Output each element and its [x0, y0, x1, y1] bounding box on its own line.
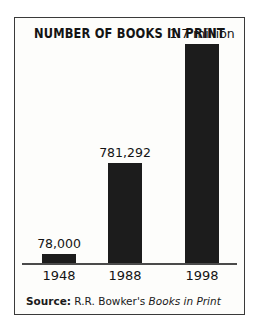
bar-value-label: 78,000 [37, 236, 81, 251]
plot-area: 78,000 781,292 1.7 million [15, 44, 244, 264]
source-note: Source: R.R. Bowker's Books in Print [26, 295, 221, 307]
x-tick-label-1948: 1948 [29, 268, 89, 283]
source-publisher: R.R. Bowker's [74, 295, 145, 307]
x-axis-tick-labels: 1948 1988 1998 [15, 268, 244, 290]
x-axis-line [22, 263, 237, 265]
bar-group-1988: 781,292 [108, 163, 142, 264]
source-label: Source: [26, 295, 71, 307]
bar-1988[interactable] [108, 163, 142, 264]
x-tick-label-1988: 1988 [95, 268, 155, 283]
bar-value-label: 1.7 million [169, 26, 235, 41]
bar-value-label: 781,292 [99, 145, 151, 160]
bar-1998[interactable] [185, 44, 219, 264]
bar-group-1998: 1.7 million [185, 44, 219, 264]
source-work-title: Books in Print [149, 295, 221, 307]
chart-figure: NUMBER OF BOOKS IN PRINT 78,000 781,292 … [14, 17, 245, 315]
x-tick-label-1998: 1998 [172, 268, 232, 283]
